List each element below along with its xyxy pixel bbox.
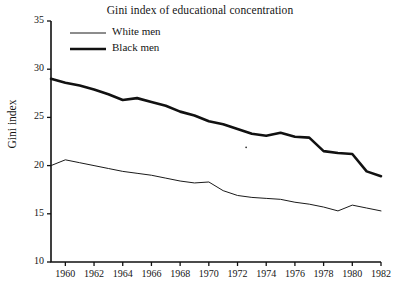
axis-spines bbox=[51, 21, 381, 262]
y-tick-10: 10 bbox=[8, 255, 44, 266]
y-tick-15: 15 bbox=[8, 207, 44, 218]
plot-area bbox=[0, 0, 400, 288]
stray-dot bbox=[245, 146, 247, 148]
y-tick-25: 25 bbox=[8, 110, 44, 121]
chart-figure: Gini index of educational concentration … bbox=[0, 0, 400, 288]
y-tick-20: 20 bbox=[8, 159, 44, 170]
series-line-black-men bbox=[51, 79, 381, 176]
y-tick-35: 35 bbox=[8, 14, 44, 25]
series-line-white-men bbox=[51, 160, 381, 211]
y-tick-30: 30 bbox=[8, 62, 44, 73]
x-tick-1982: 1982 bbox=[361, 268, 400, 279]
legend-item-black-men: Black men bbox=[112, 41, 159, 53]
legend-item-white-men: White men bbox=[112, 25, 161, 37]
